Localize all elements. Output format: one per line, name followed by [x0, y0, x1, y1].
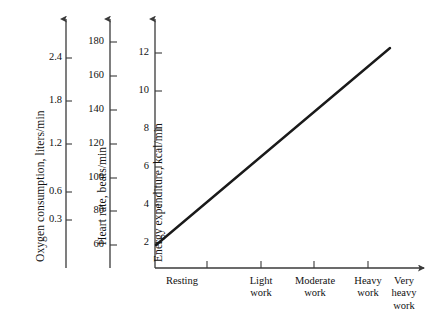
- tick-energy-6: 6: [126, 160, 149, 171]
- tick-oxygen-0-6: 0.6: [26, 185, 62, 196]
- tick-heart-rate-100: 100: [76, 171, 104, 182]
- tick-energy-4: 4: [126, 198, 149, 209]
- axis-title-heart-rate: Heart rate, beats/min: [96, 147, 108, 245]
- tick-oxygen-2-4: 2.4: [26, 51, 62, 62]
- energy-expenditure-line: [156, 48, 390, 245]
- category-label-moderate-work: Moderate work: [286, 275, 344, 300]
- tick-heart-rate-160: 160: [76, 69, 104, 80]
- category-label-light-work: Light work: [234, 275, 288, 300]
- axis-title-energy-expenditure: Energy expenditure, kcal/min: [152, 123, 164, 262]
- category-label-resting: Resting: [155, 275, 209, 287]
- tick-energy-2: 2: [126, 236, 149, 247]
- tick-heart-rate-180: 180: [76, 35, 104, 46]
- tick-heart-rate-140: 140: [76, 103, 104, 114]
- tick-energy-12: 12: [126, 46, 149, 57]
- axis-x-category: [155, 261, 424, 268]
- axis-oxygen-consumption: [66, 19, 72, 268]
- chart-figure: Oxygen consumption, liters/min Heart rat…: [0, 0, 434, 325]
- tick-heart-rate-80: 80: [76, 204, 104, 215]
- tick-oxygen-1-8: 1.8: [26, 94, 62, 105]
- tick-oxygen-0-3: 0.3: [26, 213, 62, 224]
- tick-heart-rate-120: 120: [76, 137, 104, 148]
- axis-heart-rate: [110, 19, 117, 268]
- tick-energy-8: 8: [126, 122, 149, 133]
- tick-oxygen-1-2: 1.2: [26, 137, 62, 148]
- category-label-very-heavy-work: Very heavy work: [379, 275, 429, 312]
- tick-heart-rate-60: 60: [76, 238, 104, 249]
- tick-energy-10: 10: [126, 84, 149, 95]
